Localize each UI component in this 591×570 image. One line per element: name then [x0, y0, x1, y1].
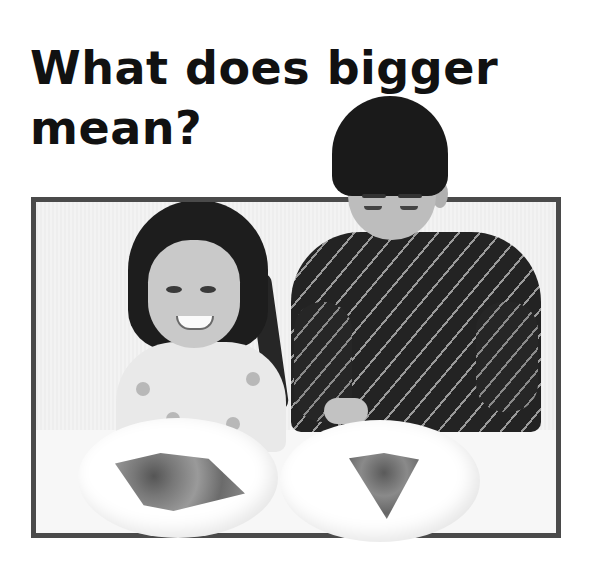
boy-arm-right — [476, 302, 538, 412]
boy-eye — [400, 206, 418, 210]
boy-hair — [332, 96, 448, 196]
boy-brow — [398, 194, 422, 198]
girl-eye — [166, 286, 182, 293]
shirt-flower — [246, 372, 260, 386]
girl-eye — [200, 286, 216, 293]
shirt-flower — [136, 382, 150, 396]
page-title: What does bigger mean? — [30, 38, 550, 158]
title-line-1: What does bigger — [30, 38, 550, 98]
boy-brow — [362, 194, 386, 198]
title-line-2: mean? — [30, 98, 550, 158]
boy-eye — [364, 206, 382, 210]
boy-head — [332, 96, 452, 246]
girl-face — [148, 240, 240, 348]
